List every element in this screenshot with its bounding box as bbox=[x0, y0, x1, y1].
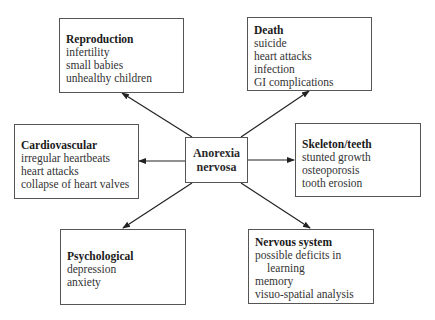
box-item: osteoporosis bbox=[302, 164, 414, 177]
box-reproduction: Reproduction infertility small babies un… bbox=[59, 18, 184, 93]
box-cardiovascular: Cardiovascular irregular heartbeats hear… bbox=[14, 124, 139, 199]
box-item: tooth erosion bbox=[302, 177, 414, 190]
box-item: irregular heartbeats bbox=[21, 152, 132, 165]
box-title: Psychological bbox=[67, 250, 179, 263]
box-item: heart attacks bbox=[254, 50, 365, 63]
box-nervous-system: Nervous system possible deficits in lear… bbox=[248, 229, 374, 304]
box-item: visuo-spatial analysis bbox=[255, 288, 367, 301]
box-title: Death bbox=[254, 24, 365, 37]
box-item: small babies bbox=[66, 59, 177, 72]
box-item: suicide bbox=[254, 37, 365, 50]
center-node-anorexia-nervosa: Anorexia nervosa bbox=[185, 137, 248, 183]
box-title: Skeleton/teeth bbox=[302, 138, 414, 151]
box-skeleton-teeth: Skeleton/teeth stunted growth osteoporos… bbox=[295, 123, 421, 197]
box-title: Cardiovascular bbox=[21, 139, 132, 152]
box-item: infection bbox=[254, 63, 365, 76]
box-death: Death suicide heart attacks infection GI… bbox=[247, 17, 372, 91]
box-item: depression bbox=[67, 263, 179, 276]
box-item: anxiety bbox=[67, 276, 179, 289]
box-item: learning bbox=[255, 262, 367, 275]
center-label-line1: Anorexia bbox=[186, 146, 247, 160]
box-item: memory bbox=[255, 275, 367, 288]
box-item: possible deficits in bbox=[255, 249, 367, 262]
box-item: GI complications bbox=[254, 76, 365, 89]
box-item: unhealthy children bbox=[66, 72, 177, 85]
box-title: Reproduction bbox=[66, 33, 177, 46]
box-title: Nervous system bbox=[255, 236, 367, 249]
box-item: collapse of heart valves bbox=[21, 178, 132, 191]
box-item: infertility bbox=[66, 46, 177, 59]
center-label-line2: nervosa bbox=[186, 160, 247, 174]
box-item: stunted growth bbox=[302, 151, 414, 164]
box-item: heart attacks bbox=[21, 165, 132, 178]
box-psychological: Psychological depression anxiety bbox=[60, 229, 186, 305]
